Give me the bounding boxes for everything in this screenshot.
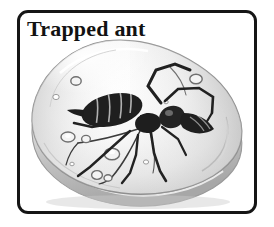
amber-cast-shadow — [46, 195, 230, 209]
amber-illustration — [20, 31, 254, 211]
illustration-stage — [20, 13, 254, 211]
figure-card: Trapped ant — [17, 10, 257, 214]
page-title: Trapped ant — [27, 16, 146, 42]
ant-head-highlight — [165, 110, 173, 116]
